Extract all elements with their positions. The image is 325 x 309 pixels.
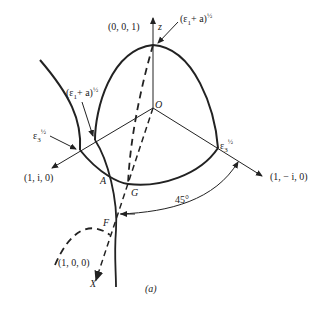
curve-top-right bbox=[153, 45, 218, 148]
z-label: z bbox=[157, 21, 162, 32]
caption: (a) bbox=[145, 283, 157, 295]
G-label: G bbox=[131, 187, 138, 198]
svg-text:(ε1+ a)½: (ε1+ a)½ bbox=[66, 86, 98, 101]
axis-1i0 bbox=[52, 108, 153, 168]
svg-text:ε3½: ε3½ bbox=[33, 128, 46, 144]
svg-text:(ε1+ a)½: (ε1+ a)½ bbox=[180, 12, 212, 27]
svg-text:ε3½: ε3½ bbox=[220, 138, 233, 154]
X-label: X bbox=[89, 278, 97, 289]
axis-1mi0 bbox=[153, 108, 262, 176]
point-1i0-label: (1, i, 0) bbox=[24, 172, 53, 184]
point-1mi0-label: (1, − i, 0) bbox=[270, 171, 308, 183]
A-label: A bbox=[99, 175, 107, 186]
angle-label: 45° bbox=[175, 194, 189, 205]
x-axis bbox=[96, 108, 153, 280]
dashed-top bbox=[128, 45, 153, 184]
origin-label: O bbox=[155, 99, 162, 110]
curve-inner bbox=[95, 140, 116, 287]
point-001-label: (0, 0, 1) bbox=[108, 21, 140, 33]
diagram: z (0, 0, 1) (ε1+ a)½ O (ε1+ a)½ ε3½ ε3½ … bbox=[0, 0, 325, 309]
curve-outer-left bbox=[40, 60, 80, 150]
F-label: F bbox=[102, 217, 110, 228]
point-100-label: (1, 0, 0) bbox=[58, 257, 90, 269]
